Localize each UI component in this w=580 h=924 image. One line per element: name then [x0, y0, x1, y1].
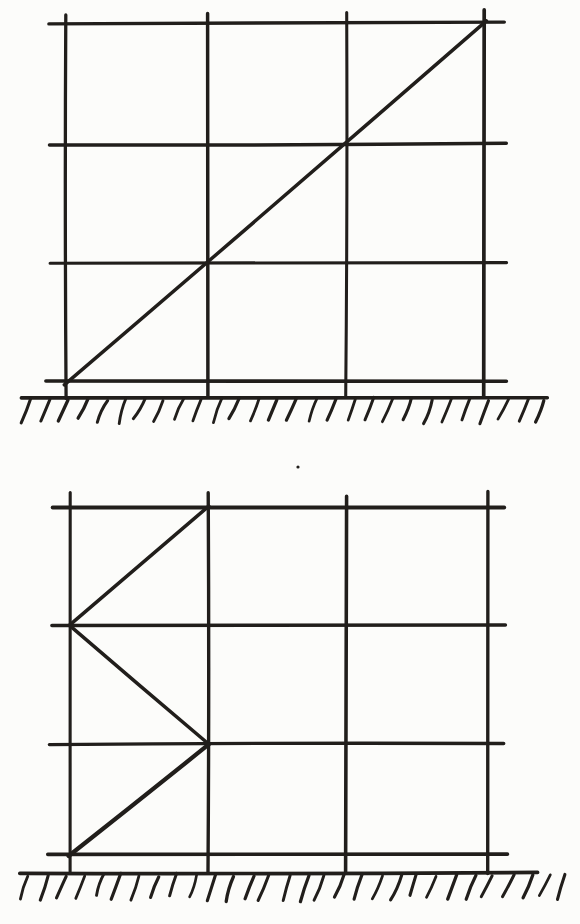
hatch-mark [403, 398, 411, 420]
hand-drawn-structural-diagrams [0, 0, 580, 924]
hatch-mark [57, 876, 67, 898]
hatch-mark [314, 875, 324, 900]
beam-line [52, 625, 506, 626]
hatch-mark [245, 876, 254, 899]
hatch-mark [354, 874, 362, 899]
hatch-mark [523, 875, 533, 898]
hatch-mark [427, 876, 437, 897]
hatch-mark [111, 873, 121, 899]
hatch-mark [154, 401, 163, 422]
hatch-mark [539, 875, 550, 896]
hatch-mark [372, 876, 382, 899]
hatch-mark [410, 875, 416, 896]
diagonal-brace-line [69, 744, 209, 856]
hatch-mark [462, 398, 470, 420]
hatch-mark [151, 877, 159, 898]
column-line [208, 493, 209, 872]
hatch-mark [40, 876, 48, 901]
frame-with-corner-diagonal [21, 10, 547, 424]
hatch-mark [558, 874, 565, 899]
hatch-mark [133, 398, 145, 419]
diagonal-brace-line [64, 21, 486, 385]
hatch-mark [190, 875, 197, 897]
hatch-mark [391, 875, 402, 900]
hatch-mark [258, 875, 269, 900]
ground-line [20, 872, 538, 873]
column-line [346, 13, 347, 398]
beam-line [50, 263, 507, 264]
hatch-mark [97, 874, 105, 896]
hatch-mark [213, 398, 222, 423]
hatch-mark [442, 399, 452, 422]
hatch-mark [207, 874, 215, 900]
beam-line [49, 743, 503, 744]
hatch-mark [365, 397, 374, 420]
hatch-mark [424, 400, 433, 424]
column-line [346, 496, 347, 871]
hatch-mark [175, 398, 185, 420]
hatch-mark [327, 399, 336, 420]
hatch-mark [466, 875, 476, 899]
hatch-mark [382, 398, 393, 422]
hatch-mark [20, 876, 27, 899]
ink-speck [296, 465, 299, 468]
diagonal-brace-line [70, 626, 209, 744]
hatch-mark [448, 875, 457, 899]
hatch-mark [97, 401, 107, 423]
hatch-mark [251, 399, 260, 421]
hatch-mark [519, 398, 529, 421]
hatch-mark [21, 398, 31, 423]
hatch-mark [193, 399, 201, 421]
sketch-canvas [0, 0, 580, 924]
hatch-mark [481, 876, 492, 897]
diagonal-brace-line [69, 506, 209, 625]
hatch-mark [41, 400, 50, 422]
hatch-mark [480, 401, 489, 424]
beam-line [50, 143, 507, 145]
hatch-mark [300, 876, 309, 902]
hatch-mark [268, 400, 276, 420]
hatch-mark [119, 399, 126, 424]
hatch-mark [78, 399, 88, 418]
hatch-mark [76, 876, 85, 898]
column-line [484, 10, 485, 397]
hatch-mark [58, 400, 68, 421]
beam-line [49, 22, 504, 24]
hatch-mark [348, 399, 355, 420]
frame-with-zigzag-bracing [20, 465, 565, 901]
hatch-mark [131, 876, 139, 900]
column-line [65, 15, 66, 398]
hatch-mark [498, 399, 509, 419]
hatch-mark [309, 399, 317, 421]
hatch-mark [286, 398, 296, 420]
hatch-mark [536, 401, 544, 422]
hatch-mark [226, 877, 233, 902]
hatch-mark [503, 875, 514, 897]
hatch-mark [170, 873, 177, 895]
hatch-mark [229, 398, 239, 419]
hatch-mark [335, 874, 345, 897]
hatch-mark [283, 875, 290, 900]
